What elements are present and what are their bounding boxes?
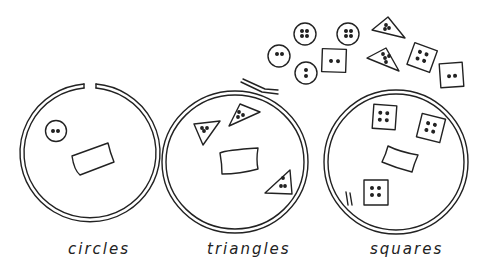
blank-card-squares: [382, 146, 418, 172]
blank-card-triangles: [220, 148, 258, 174]
square-button-in-ring-3: [364, 180, 388, 205]
loose-circle-button-2-holes-2: [295, 62, 317, 84]
ring-circles: [20, 84, 160, 222]
triangle-button-2: [229, 104, 260, 126]
loose-square-button-4-holes: [407, 43, 437, 73]
triangle-button-1: [194, 121, 220, 145]
loose-circle-button-4-holes-2: [337, 23, 359, 45]
label-triangles: triangles: [207, 240, 291, 258]
triangle-button-3: [265, 170, 292, 194]
loose-circle-button-4-holes-1: [294, 23, 316, 45]
label-circles: circles: [68, 240, 130, 258]
circle-button-in-ring: [46, 121, 67, 142]
loose-circle-button-2-holes-1: [268, 45, 290, 67]
ring-triangles: [162, 79, 308, 233]
sorting-diagram: [0, 0, 486, 278]
label-squares: squares: [370, 240, 443, 258]
loose-triangle-button-1: [372, 17, 405, 38]
loose-square-button-2-holes-1: [322, 49, 347, 73]
square-button-in-ring-2: [416, 113, 445, 142]
square-button-in-ring-1: [372, 104, 397, 130]
blank-card-circles: [72, 143, 114, 175]
loose-triangle-button-2: [367, 48, 399, 71]
loose-square-button-2-holes-2: [439, 62, 464, 88]
